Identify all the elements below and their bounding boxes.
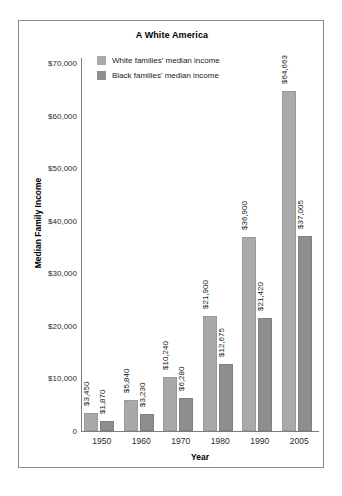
bar-white-families[interactable]: $64,663 <box>282 91 296 431</box>
bar-group: $3,450$1,870 <box>82 63 122 431</box>
bar-value-label: $6,280 <box>177 367 186 391</box>
x-axis-title: Year <box>81 452 319 462</box>
bar-black-families[interactable]: $37,005 <box>298 236 312 431</box>
bar-black-families[interactable]: $1,870 <box>100 421 114 431</box>
bar-value-label: $3,230 <box>138 383 147 407</box>
bar-black-families[interactable]: $12,675 <box>219 364 233 431</box>
bar-group: $5,840$3,230 <box>122 63 162 431</box>
bar-white-families[interactable]: $21,900 <box>203 316 217 431</box>
bar-value-label: $36,900 <box>240 201 249 230</box>
y-axis-tick-label: $50,000 <box>25 164 77 173</box>
bar-value-label: $21,900 <box>201 280 210 309</box>
bar-white-families[interactable]: $10,240 <box>163 377 177 431</box>
y-axis-tick-label: $20,000 <box>25 321 77 330</box>
y-axis-tick-label: $30,000 <box>25 269 77 278</box>
bar-white-families[interactable]: $3,450 <box>84 413 98 431</box>
bar-value-label: $64,663 <box>280 55 289 84</box>
bar-value-label: $10,240 <box>161 341 170 370</box>
bar-black-families[interactable]: $3,230 <box>140 414 154 431</box>
chart-figure: A White America White families' median i… <box>18 20 324 468</box>
bar-value-label: $5,840 <box>122 369 131 393</box>
x-axis-tick-label: 2005 <box>279 436 319 446</box>
x-axis-tick-label: 1980 <box>200 436 240 446</box>
x-axis-line <box>81 431 319 432</box>
bar-white-families[interactable]: $5,840 <box>124 400 138 431</box>
y-axis-tick-label: 0 <box>25 427 77 436</box>
y-axis-tick-label: $10,000 <box>25 374 77 383</box>
bar-group: $10,240$6,280 <box>161 63 201 431</box>
bar-group: $64,663$37,005 <box>280 63 320 431</box>
bar-group: $21,900$12,675 <box>201 63 241 431</box>
bar-black-families[interactable]: $6,280 <box>179 398 193 431</box>
bar-value-label: $37,005 <box>296 201 305 230</box>
bar-black-families[interactable]: $21,420 <box>258 318 272 431</box>
plot-area: $3,450$1,870$5,840$3,230$10,240$6,280$21… <box>82 63 319 431</box>
bar-value-label: $3,450 <box>82 381 91 405</box>
bar-group: $36,900$21,420 <box>240 63 280 431</box>
bar-white-families[interactable]: $36,900 <box>242 237 256 431</box>
y-axis-tick-labels: 0$10,000$20,000$30,000$40,000$50,000$60,… <box>19 21 77 469</box>
bar-value-label: $12,675 <box>217 328 226 357</box>
bar-value-label: $21,420 <box>256 282 265 311</box>
bar-value-label: $1,870 <box>98 390 107 414</box>
x-axis-tick-label: 1960 <box>121 436 161 446</box>
y-axis-tick-label: $40,000 <box>25 216 77 225</box>
x-axis-tick-label: 1990 <box>240 436 280 446</box>
x-axis-tick-label: 1970 <box>161 436 201 446</box>
y-axis-tick-label: $60,000 <box>25 111 77 120</box>
y-axis-tick-label: $70,000 <box>25 59 77 68</box>
x-axis-tick-label: 1950 <box>82 436 122 446</box>
